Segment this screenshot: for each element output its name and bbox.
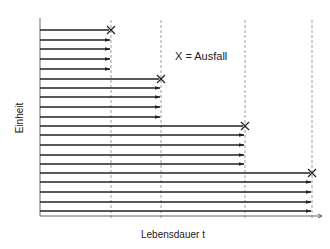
axes — [40, 18, 322, 218]
legend-text: X = Ausfall — [175, 50, 227, 62]
x-axis-label: Lebensdauer t — [141, 229, 205, 240]
y-axis-label: Einheit — [14, 102, 25, 133]
lifetime-diagram: X = Ausfall Lebensdauer t Einheit — [0, 0, 330, 249]
